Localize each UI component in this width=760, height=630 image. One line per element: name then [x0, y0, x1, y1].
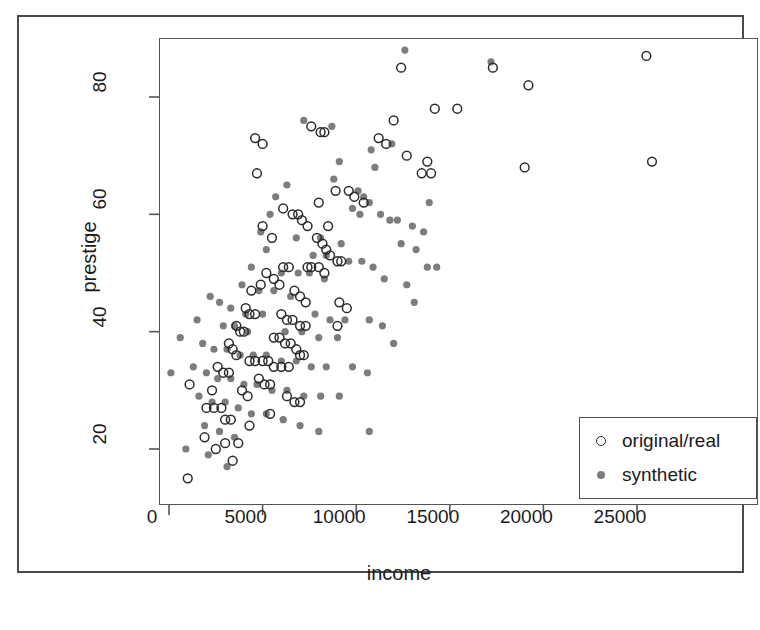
y-tick-label: 80 [88, 52, 112, 112]
y-tick-label-wrap: 80 [70, 70, 130, 94]
legend-item-synthetic[interactable]: synthetic [580, 458, 758, 492]
scatter-plot-page: 0500010000150002000025000 20406080 incom… [0, 0, 760, 630]
y-axis-title-text: prestige [74, 177, 104, 337]
page-border: 0500010000150002000025000 20406080 incom… [17, 15, 744, 573]
y-axis-title: prestige [9, 242, 169, 272]
x-tick-label: 0 [147, 506, 158, 528]
y-tick-label: 20 [88, 404, 112, 464]
x-tick-label: 10000 [313, 506, 366, 528]
y-tick-label-wrap: 20 [70, 422, 130, 446]
x-axis-title: income [19, 562, 760, 585]
filled-circle-icon [580, 471, 622, 479]
open-circle-icon [580, 436, 622, 446]
legend: original/real synthetic [579, 417, 757, 499]
x-tick-label: 15000 [406, 506, 459, 528]
x-tick-label: 20000 [500, 506, 553, 528]
x-tick-label: 25000 [594, 506, 647, 528]
legend-label-original-real: original/real [622, 430, 720, 452]
legend-label-synthetic: synthetic [622, 464, 697, 486]
x-tick-label: 5000 [224, 506, 266, 528]
legend-item-original-real[interactable]: original/real [580, 424, 758, 458]
